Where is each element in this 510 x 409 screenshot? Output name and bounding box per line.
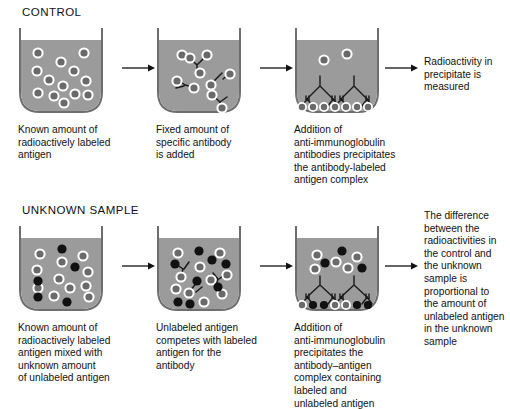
beaker-control-1	[18, 26, 104, 114]
bound-labeled-antigen-group	[298, 103, 372, 111]
unknown-section-title: UNKNOWN SAMPLE	[22, 204, 139, 216]
unknown-sample-row: UNKNOWN SAMPLE	[0, 198, 510, 409]
control-row: CONTROL	[0, 0, 510, 198]
unknown-result-text: The difference between the radioactiviti…	[424, 210, 510, 349]
caption-control-1: Known amount of radioactively labeled an…	[18, 124, 143, 162]
arrow-unknown-1	[122, 260, 156, 272]
caption-unknown-2: Unlabeled antigen competes with labeled …	[156, 322, 284, 372]
beaker-control-2	[156, 26, 242, 114]
beaker-unknown-1	[18, 224, 104, 312]
beaker-unknown-3	[294, 224, 380, 312]
beaker-unknown-2	[156, 224, 242, 312]
caption-control-3: Addition of anti-immunoglobulin antibodi…	[294, 124, 416, 187]
caption-control-2: Fixed amount of specific antibody is add…	[156, 124, 276, 162]
caption-unknown-3: Addition of anti-immunoglobulin precipit…	[294, 322, 416, 409]
arrow-unknown-result	[385, 260, 419, 272]
caption-unknown-1: Known amount of radioactively labeled an…	[18, 322, 146, 385]
control-section-title: CONTROL	[22, 6, 81, 18]
beaker-control-3	[294, 26, 380, 114]
arrow-unknown-2	[260, 260, 294, 272]
arrow-control-result	[385, 62, 419, 74]
arrow-control-1	[122, 62, 156, 74]
arrow-control-2	[260, 62, 294, 74]
control-result-text: Radioactivity in precipitate is measured	[424, 56, 508, 94]
